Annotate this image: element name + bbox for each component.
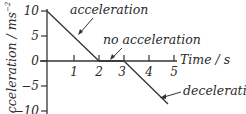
annotation-no-acceleration: no acceleration [103, 32, 201, 47]
x-ticks [74, 55, 174, 61]
x-tick-label: 3 [118, 65, 126, 79]
annotation-deceleration: deceleration [183, 83, 246, 98]
y-tick-label: 10 [24, 4, 40, 18]
series-acceleration [47, 11, 99, 61]
y-axis-title: Acceleration / ms−2 [4, 1, 19, 114]
x-axis-title: Time / s [180, 52, 230, 67]
y-axis-title-main: Acceleration / ms [4, 12, 19, 114]
y-ticks [41, 11, 47, 111]
annotation-acceleration: acceleration [70, 2, 148, 17]
svg-text:Acceleration / ms−2: Acceleration / ms−2 [4, 1, 19, 114]
x-tick-label: 1 [70, 65, 78, 79]
arrowhead-icon [110, 54, 115, 60]
acceleration-time-chart: 10 5 0 −5 −10 1 2 3 4 5 Time / s Acceler… [0, 0, 246, 114]
x-tick-label: 2 [94, 65, 103, 79]
arrow-deceleration [164, 92, 181, 97]
y-tick-label: 0 [31, 54, 39, 68]
y-axis-title-sup: −2 [4, 1, 12, 12]
x-tick-label: 5 [170, 65, 178, 79]
y-tick-label: −5 [21, 79, 39, 93]
x-tick-label: 4 [144, 65, 153, 79]
y-tick-label: 5 [31, 29, 39, 43]
arrow-acceleration [80, 18, 93, 33]
